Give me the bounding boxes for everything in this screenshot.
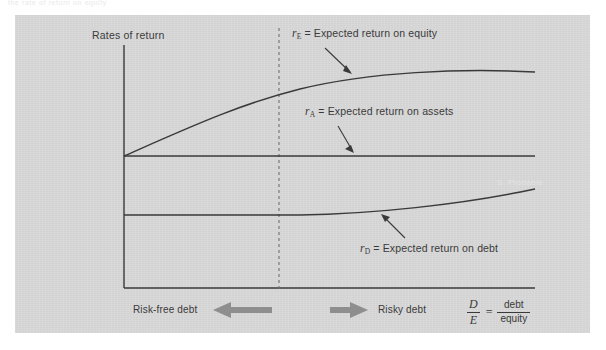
leader-arrow-debt [381,214,405,238]
label-equity-text: = Expected return on equity [304,27,437,39]
ratio-debt-over-equity: debt equity [497,300,530,324]
symbol-r-e: rE [292,27,301,39]
ratio-value-numerator: debt [501,300,526,312]
ratio-definition: D E = debt equity [466,298,530,326]
curve-expected-return-debt [124,189,535,215]
ratio-denominator: E [467,312,480,327]
label-expected-return-equity: rE = Expected return on equity [292,27,437,41]
label-expected-return-debt: rD = Expected return on debt [360,242,498,256]
ratio-equals-sign: = [486,305,493,320]
label-risk-free-debt: Risk-free debt [133,304,197,315]
ratio-value-denominator: equity [497,312,530,325]
ratio-d-over-e: D E [466,298,481,326]
ratio-numerator: D [466,298,481,312]
figure-root: the rate of return on equity S. Probable [0,0,606,350]
arrow-risky-right [330,302,368,318]
label-assets-text: = Expected return on assets [318,105,453,117]
label-debt-text: = Expected return on debt [373,242,498,254]
symbol-r-a: rA [305,105,315,117]
label-risky-debt: Risky debt [378,304,426,315]
leader-arrow-equity [325,48,352,74]
symbol-r-d: rD [360,242,370,254]
arrow-risk-free-left [213,302,272,318]
leader-arrow-assets [338,126,354,153]
label-expected-return-assets: rA = Expected return on assets [305,105,453,119]
y-axis-title: Rates of return [92,29,164,41]
